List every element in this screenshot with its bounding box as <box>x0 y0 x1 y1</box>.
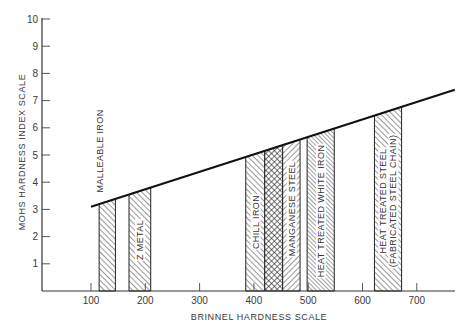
y-tick-label: 3 <box>32 204 38 215</box>
y-tick-label: 8 <box>32 68 38 79</box>
chart-container: 12345678910100200300400500600700 MALLEAB… <box>0 0 465 330</box>
bar-malleable-iron <box>99 199 115 291</box>
hardness-chart: 12345678910100200300400500600700 MALLEAB… <box>0 0 465 330</box>
x-tick-label: 200 <box>137 295 154 306</box>
y-axis-title: MOHS HARDNESS INDEX SCALE <box>17 74 27 231</box>
bar-label-malleable-iron: MALLEABLE IRON <box>95 109 105 192</box>
bar-label-chill-iron: CHILL IRON <box>251 194 261 250</box>
x-tick-label: 600 <box>354 295 371 306</box>
y-tick-label: 7 <box>32 95 38 106</box>
y-tick-label: 2 <box>32 231 38 242</box>
y-tick-label: 6 <box>32 122 38 133</box>
x-axis-title: BRINNEL HARDNESS SCALE <box>191 312 327 322</box>
y-tick-label: 9 <box>32 41 38 52</box>
y-tick-label: 1 <box>32 258 38 269</box>
svg-text:HEAT TREATED WHITE IRON: HEAT TREATED WHITE IRON <box>316 145 326 278</box>
svg-text:MANGANESE STEEL: MANGANESE STEEL <box>287 162 297 257</box>
x-tick-label: 700 <box>408 295 425 306</box>
bar-sublabel-heat-treated-steel: (FABRICATED STEEL CHAIN) <box>388 134 398 269</box>
bar-label-heat-treated-white-iron: HEAT TREATED WHITE IRON <box>316 144 326 279</box>
x-tick-label: 400 <box>246 295 263 306</box>
bar-label-manganese-steel: MANGANESE STEEL <box>287 161 297 258</box>
svg-text:MALLEABLE IRON: MALLEABLE IRON <box>95 109 105 192</box>
y-tick-label: 5 <box>32 150 38 161</box>
x-tick-label: 100 <box>83 295 100 306</box>
y-tick-label: 4 <box>32 177 38 188</box>
y-tick-label: 10 <box>27 14 39 25</box>
x-tick-label: 500 <box>300 295 317 306</box>
bar-label-heat-treated-steel: HEAT TREATED STEEL <box>378 147 388 254</box>
svg-text:(FABRICATED STEEL CHAIN): (FABRICATED STEEL CHAIN) <box>388 135 398 268</box>
svg-text:HEAT TREATED STEEL: HEAT TREATED STEEL <box>378 148 388 253</box>
x-tick-label: 300 <box>191 295 208 306</box>
svg-text:Z METAL: Z METAL <box>135 220 145 260</box>
svg-text:CHILL IRON: CHILL IRON <box>251 195 261 249</box>
bar-unlabeled-crosshatch <box>265 145 283 291</box>
bar-label-z-metal: Z METAL <box>135 219 145 261</box>
